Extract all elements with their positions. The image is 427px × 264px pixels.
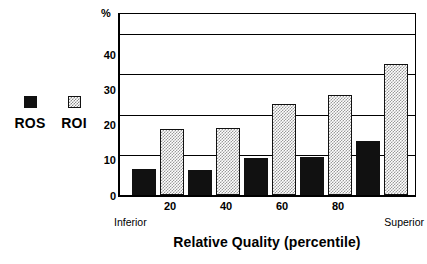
x-axis-end-label-superior: Superior: [384, 216, 424, 228]
bar-roi-group-5: [384, 64, 408, 195]
y-axis-tick-10: 10: [104, 155, 116, 166]
gridline-30: [120, 74, 415, 75]
x-axis-tick-60: 60: [276, 200, 288, 212]
x-axis-tick-20: 20: [164, 200, 176, 212]
chart-legend: ROS ROI: [8, 96, 98, 142]
x-axis-end-captions: Inferior Superior: [100, 216, 426, 230]
legend-swatch-checkered-gray-square-icon: [68, 96, 81, 108]
gridline-40: [120, 34, 415, 35]
legend-swatch-solid-black-square-icon: [24, 96, 37, 108]
bar-ros-group-5: [356, 141, 380, 195]
y-axis-tick-20: 20: [104, 120, 116, 131]
legend-entry-ros: ROS: [10, 96, 50, 131]
bar-roi-group-2: [216, 128, 240, 195]
x-axis-title: Relative Quality (percentile): [118, 234, 416, 250]
y-axis-tick-0: 0: [110, 191, 116, 202]
bar-roi-group-1: [160, 129, 184, 195]
bar-roi-group-3: [272, 104, 296, 195]
x-axis-tick-80: 80: [332, 200, 344, 212]
bar-ros-group-1: [132, 169, 156, 195]
legend-label-ros: ROS: [10, 116, 50, 131]
legend-entry-roi: ROI: [54, 96, 94, 131]
x-axis-tick-40: 40: [220, 200, 232, 212]
y-axis-tick-40: 40: [104, 50, 116, 61]
y-axis-tick-labels: 40 30 20 10 0: [96, 0, 116, 210]
plot-area: [118, 13, 416, 197]
x-axis-end-label-inferior: Inferior: [114, 216, 147, 228]
legend-label-roi: ROI: [54, 116, 94, 131]
bar-ros-group-4: [300, 157, 324, 195]
y-axis-tick-30: 30: [104, 85, 116, 96]
bar-roi-group-4: [328, 95, 352, 195]
gridline-20: [120, 115, 415, 116]
bar-ros-group-2: [188, 170, 212, 195]
bar-ros-group-3: [244, 158, 268, 195]
x-axis-tick-labels: 20 40 60 80: [118, 200, 416, 214]
bar-chart-figure: ROS ROI % 40 30 20 10 0: [0, 0, 427, 264]
